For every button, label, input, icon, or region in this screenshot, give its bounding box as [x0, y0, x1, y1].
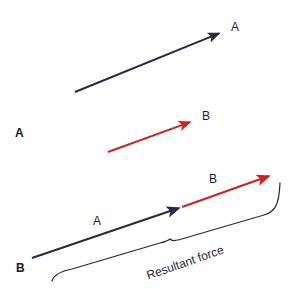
panel-a-group-label: A — [15, 127, 24, 139]
vector-canvas — [0, 0, 294, 289]
vector-a-top-label: A — [231, 21, 239, 33]
panel-b-group-label: B — [16, 262, 25, 274]
vector-b-bottom-label: B — [209, 173, 217, 185]
vector-b-bottom — [182, 176, 269, 207]
vector-b-middle — [108, 122, 190, 152]
vector-a-top — [75, 33, 219, 92]
vector-a-bottom-label: A — [93, 215, 101, 227]
vector-a-bottom — [32, 208, 179, 258]
vector-b-middle-label: B — [202, 110, 210, 122]
vector-addition-diagram: A B A B A B Resultant force — [0, 0, 294, 289]
